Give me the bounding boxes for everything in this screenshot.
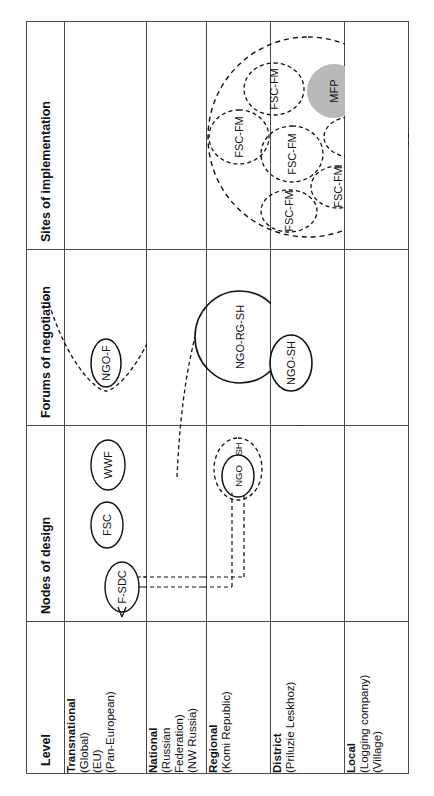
cell-nodes-national (147, 426, 207, 622)
node-ngo-sh-label: NGO-SH (285, 341, 297, 385)
col-header-level-label: Level (27, 622, 64, 773)
level-sub-regional-1: (Komi Republic) (220, 622, 233, 773)
level-name-local: Local (345, 622, 358, 773)
col-header-forums: Forums of negotiation (27, 250, 65, 426)
forums-regional-canvas: NGO-RG-SH (207, 250, 270, 425)
sites-district-svg: MFP FSC-FM FSC-FM (271, 21, 345, 249)
node-mfp-label: MFP (328, 79, 340, 102)
cell-forums-regional: NGO-RG-SH (207, 250, 271, 426)
node-ngo-f[interactable]: NGO-F (91, 339, 121, 387)
level-sub-national-2: Federation) (173, 622, 186, 773)
nodes-transnational-canvas: F-SDC FSC (65, 426, 146, 621)
node-ngo-rg-sh-label: NGO-RG-SH (234, 305, 246, 369)
node-wwf-label: WWF (102, 451, 114, 479)
col-header-nodes-label: Nodes of design (27, 426, 64, 621)
cell-nodes-district (271, 426, 345, 622)
node-ngo-f-label: NGO-F (100, 345, 112, 381)
level-sub-national-1: (Russian (160, 622, 173, 773)
nodes-national-svg (147, 425, 207, 621)
col-header-nodes: Nodes of design (27, 426, 65, 622)
connector-f-sdc-to-ngo-end (203, 493, 244, 587)
node-wwf[interactable]: WWF (91, 440, 125, 490)
node-ngo-label: NGO (233, 465, 244, 487)
node-fsc-fm-3-label: FSC-FM (268, 68, 280, 110)
cell-nodes-local (345, 426, 409, 622)
level-cell-district: District (Priluzie Leskhoz) (271, 622, 345, 774)
node-ngo-sh[interactable]: NGO-SH (270, 335, 312, 391)
node-fsc[interactable]: FSC (91, 502, 123, 548)
level-sub-district-1: (Priluzie Leskhoz) (284, 622, 297, 773)
cell-sites-transnational (65, 22, 147, 250)
node-fsc-fm-5-label: FSC-FM (332, 166, 344, 208)
framework-table: Level Nodes of design Forums of negotiat… (26, 21, 409, 774)
nodes-national-canvas (147, 426, 206, 621)
rotated-figure: Level Nodes of design Forums of negotiat… (26, 22, 408, 774)
level-sub-local-1: (Logging company) (358, 622, 371, 773)
forums-regional-svg: NGO-RG-SH (207, 249, 271, 425)
table-row-transnational: Transnational (Global) (EU) (Pan-Europea… (65, 22, 147, 774)
level-cell-national: National (Russian Federation) (NW Russia… (147, 622, 207, 774)
node-ngo[interactable]: NGO (222, 455, 254, 497)
table-row-national: National (Russian Federation) (NW Russia… (147, 22, 207, 774)
cell-forums-local (345, 250, 409, 426)
cell-forums-national (147, 250, 207, 426)
cell-sites-district: MFP FSC-FM FSC-FM (271, 22, 345, 250)
sites-district-canvas: MFP FSC-FM FSC-FM (271, 22, 344, 249)
level-name-district: District (271, 622, 284, 773)
level-sub-transnational-1: (Global) (78, 622, 91, 773)
level-cell-local: Local (Logging company) (Village) (345, 622, 409, 774)
table-row-district: District (Priluzie Leskhoz) NGO-SH (271, 22, 345, 774)
cell-sites-local (345, 22, 409, 250)
node-fsc-fm-2[interactable]: FSC-FM (261, 126, 323, 182)
nodes-transnational-svg: F-SDC FSC (65, 425, 147, 621)
col-header-sites-label: Sites of implementation (27, 22, 64, 249)
col-header-forums-label: Forums of negotiation (27, 250, 64, 425)
col-header-sites: Sites of implementation (27, 22, 65, 250)
cell-forums-transnational: NGO-F (65, 250, 147, 426)
cell-nodes-transnational: F-SDC FSC (65, 426, 147, 622)
level-name-national: National (147, 622, 160, 773)
figure-page: Level Nodes of design Forums of negotiat… (0, 0, 434, 796)
node-fsc-fm-4-label: FSC-FM (283, 190, 295, 232)
cell-sites-national (147, 22, 207, 250)
node-f-sdc-label: F-SDC (116, 570, 128, 604)
col-header-level: Level (27, 622, 65, 774)
forums-transnational-svg: NGO-F (65, 249, 147, 425)
level-sub-transnational-3: (Pan-European) (104, 622, 117, 773)
node-f-sdc[interactable]: F-SDC (105, 562, 139, 612)
nodes-regional-canvas: SH NGO (207, 426, 270, 621)
node-fsc-label: FSC (101, 514, 113, 536)
node-fsc-fm-2-label: FSC-FM (286, 133, 298, 175)
node-sh-group-label: SH (233, 442, 244, 455)
table-row-local: Local (Logging company) (Village) (345, 22, 409, 774)
level-sub-local-2: (Village) (371, 622, 384, 773)
forums-district-canvas: NGO-SH (271, 250, 344, 425)
table-header-row: Level Nodes of design Forums of negotiat… (27, 22, 65, 774)
level-name-transnational: Transnational (65, 622, 78, 773)
forums-district-svg: NGO-SH (271, 249, 345, 425)
node-fsc-fm-1-label: FSC-FM (233, 116, 245, 158)
level-cell-transnational: Transnational (Global) (EU) (Pan-Europea… (65, 622, 147, 774)
forums-transnational-canvas: NGO-F (65, 250, 146, 425)
cell-forums-district: NGO-SH (271, 250, 345, 426)
level-cell-regional: Regional (Komi Republic) (207, 622, 271, 774)
level-name-regional: Regional (207, 622, 220, 773)
nodes-regional-svg: SH NGO (207, 425, 271, 621)
cell-nodes-regional: SH NGO (207, 426, 271, 622)
connector-f-sdc-to-ngo-mid (143, 577, 211, 587)
level-sub-transnational-2: (EU) (91, 622, 104, 773)
level-sub-national-3: (NW Russia) (186, 622, 199, 773)
